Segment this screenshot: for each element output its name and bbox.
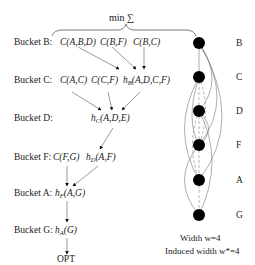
bucket-f-label: Bucket F: (14, 153, 51, 163)
node-label-b: B (236, 39, 242, 49)
opt-label: OPT (57, 255, 75, 265)
node-label-a: A (236, 176, 243, 186)
message: hC(A,D,E) (91, 114, 130, 125)
node-label-c: C (236, 73, 242, 83)
bucket-d-label: Bucket D: (14, 114, 53, 124)
width-label: Width w=4 (180, 234, 220, 243)
node-label-f: F (236, 141, 241, 151)
bucket-b-label: Bucket B: (14, 38, 52, 48)
message: hB(A,D,C,F) (123, 76, 170, 87)
brace (52, 24, 196, 36)
bucket-g-label: Bucket G: (14, 226, 53, 236)
term: C(A,B,D) (60, 38, 96, 48)
term: C(A,C) (60, 76, 87, 86)
min-sum-label: min ∑ (109, 13, 134, 23)
message: hA(G) (55, 226, 77, 237)
bucket-a-label: Bucket A: (14, 189, 52, 199)
graph-edges (185, 43, 223, 215)
term: C(B,F) (100, 38, 127, 48)
node-label-g: G (236, 211, 243, 221)
message: hD(A,F) (86, 153, 116, 164)
term: C(F,G) (53, 153, 79, 163)
node-label-d: D (236, 107, 243, 117)
bucket-c-label: Bucket C: (14, 76, 52, 86)
term: C(B,C) (133, 38, 160, 48)
term: C(C,F) (91, 76, 118, 86)
message: hF(A,G) (55, 189, 85, 200)
induced-width-label: Induced width w*=4 (165, 247, 240, 256)
